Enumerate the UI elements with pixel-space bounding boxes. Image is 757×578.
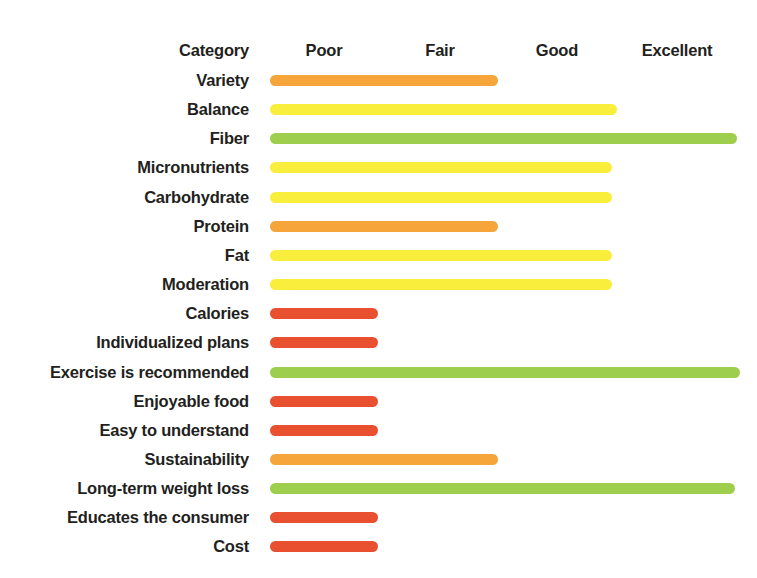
chart-row: Sustainability [0, 450, 757, 479]
bar-enjoyable-food [270, 396, 378, 407]
bar-track [270, 304, 750, 323]
bar-track [270, 246, 750, 265]
row-label-protein: Protein [0, 217, 249, 236]
chart-row: Individualized plans [0, 333, 757, 362]
bar-track [270, 421, 750, 440]
bar-track [270, 450, 750, 469]
bar-track [270, 158, 750, 177]
bar-long-term-weight-loss [270, 483, 735, 494]
bar-track [270, 392, 750, 411]
bar-sustainability [270, 454, 498, 465]
bar-fat [270, 250, 612, 261]
bar-track [270, 363, 750, 382]
chart-row: Fiber [0, 129, 757, 158]
bar-easy-to-understand [270, 425, 378, 436]
chart-row: Micronutrients [0, 158, 757, 187]
bar-track [270, 333, 750, 352]
chart-row: Exercise is recommended [0, 363, 757, 392]
bar-fiber [270, 133, 737, 144]
bar-track [270, 508, 750, 527]
rating-chart: Category PoorFairGoodExcellent VarietyBa… [0, 0, 757, 578]
bar-track [270, 71, 750, 90]
row-label-easy-to-understand: Easy to understand [0, 421, 249, 440]
chart-row: Enjoyable food [0, 392, 757, 421]
chart-row: Long-term weight loss [0, 479, 757, 508]
row-label-individualized-plans: Individualized plans [0, 333, 249, 352]
row-label-calories: Calories [0, 304, 249, 323]
row-label-cost: Cost [0, 537, 249, 556]
row-label-educates-the-consumer: Educates the consumer [0, 508, 249, 527]
bar-track [270, 479, 750, 498]
row-label-variety: Variety [0, 71, 249, 90]
row-label-fat: Fat [0, 246, 249, 265]
bar-moderation [270, 279, 612, 290]
bar-variety [270, 75, 498, 86]
bar-exercise-is-recommended [270, 367, 740, 378]
bar-calories [270, 308, 378, 319]
chart-row: Calories [0, 304, 757, 333]
chart-row: Variety [0, 71, 757, 100]
row-label-micronutrients: Micronutrients [0, 158, 249, 177]
bar-track [270, 275, 750, 294]
bar-track [270, 129, 750, 148]
bar-track [270, 537, 750, 556]
row-label-enjoyable-food: Enjoyable food [0, 392, 249, 411]
bar-track [270, 188, 750, 207]
chart-row: Easy to understand [0, 421, 757, 450]
bar-protein [270, 221, 498, 232]
bar-educates-the-consumer [270, 512, 378, 523]
chart-row: Balance [0, 100, 757, 129]
bar-carbohydrate [270, 192, 612, 203]
chart-row: Fat [0, 246, 757, 275]
row-label-moderation: Moderation [0, 275, 249, 294]
chart-row: Moderation [0, 275, 757, 304]
bar-track [270, 100, 750, 119]
chart-row: Educates the consumer [0, 508, 757, 537]
bar-individualized-plans [270, 337, 378, 348]
row-label-balance: Balance [0, 100, 249, 119]
row-label-carbohydrate: Carbohydrate [0, 188, 249, 207]
bar-cost [270, 541, 378, 552]
chart-rows: VarietyBalanceFiberMicronutrientsCarbohy… [0, 0, 757, 578]
chart-row: Carbohydrate [0, 188, 757, 217]
row-label-fiber: Fiber [0, 129, 249, 148]
bar-micronutrients [270, 162, 612, 173]
chart-row: Cost [0, 537, 757, 566]
chart-row: Protein [0, 217, 757, 246]
row-label-long-term-weight-loss: Long-term weight loss [0, 479, 249, 498]
bar-track [270, 217, 750, 236]
row-label-sustainability: Sustainability [0, 450, 249, 469]
row-label-exercise-is-recommended: Exercise is recommended [0, 363, 249, 382]
bar-balance [270, 104, 617, 115]
